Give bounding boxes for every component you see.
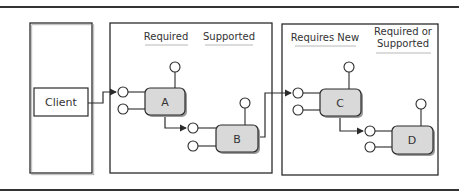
port-circle-icon	[118, 104, 128, 114]
port-circle-icon	[170, 62, 180, 72]
column-label-required-or: Required or	[374, 26, 433, 37]
port-circle-icon	[365, 142, 375, 152]
node-c-label: C	[336, 97, 344, 110]
port-circle-icon	[293, 88, 303, 98]
column-label-supported-2: Supported	[377, 38, 429, 49]
port-circle-icon	[344, 62, 354, 72]
client-container: Client	[30, 23, 94, 175]
node-a-label: A	[161, 96, 169, 109]
node-d-label: D	[408, 134, 416, 147]
port-circle-icon	[240, 98, 250, 108]
port-circle-icon	[188, 141, 198, 151]
column-label-required: Required	[144, 31, 189, 42]
port-circle-icon	[293, 105, 303, 115]
column-label-supported: Supported	[203, 31, 255, 42]
client-label: Client	[45, 96, 78, 109]
port-circle-icon	[118, 87, 128, 97]
client-box: Client	[34, 88, 88, 116]
diagram-canvas: Client Required Supported Requires New R…	[0, 0, 459, 193]
transaction-attribute-diagram: Client Required Supported Requires New R…	[0, 0, 459, 193]
port-circle-icon	[365, 126, 375, 136]
port-circle-icon	[416, 99, 426, 109]
node-b-label: B	[233, 133, 241, 146]
port-circle-icon	[188, 123, 198, 133]
column-label-requires-new: Requires New	[291, 32, 359, 43]
